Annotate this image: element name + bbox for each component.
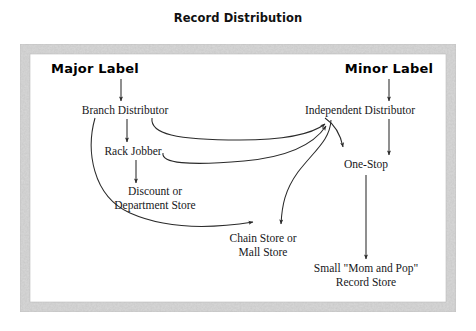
node-label-line: Branch Distributor bbox=[82, 104, 169, 118]
node-major-label: Major Label bbox=[51, 62, 139, 76]
node-independent-distributor: Independent Distributor bbox=[305, 104, 415, 118]
node-label-line: Department Store bbox=[114, 199, 195, 213]
node-mom-and-pop-record-store: Small "Mom and Pop" Record Store bbox=[314, 262, 418, 289]
figure-page: Record Distribution bbox=[0, 0, 476, 331]
node-label-line: Chain Store or bbox=[229, 232, 296, 246]
node-label-line: Record Store bbox=[314, 276, 418, 290]
node-label-line: Minor Label bbox=[345, 62, 433, 76]
edge-branch-to-independent bbox=[152, 118, 325, 140]
node-label-line: Independent Distributor bbox=[305, 104, 415, 118]
edge-rack-to-independent bbox=[163, 126, 326, 163]
node-label-line: Major Label bbox=[51, 62, 139, 76]
node-branch-distributor: Branch Distributor bbox=[82, 104, 169, 118]
node-label-line: Discount or bbox=[114, 185, 195, 199]
node-discount-department-store: Discount or Department Store bbox=[114, 185, 195, 212]
node-label-line: One-Stop bbox=[344, 158, 388, 172]
node-chain-mall-store: Chain Store or Mall Store bbox=[229, 232, 296, 259]
node-label-line: Small "Mom and Pop" bbox=[314, 262, 418, 276]
node-minor-label: Minor Label bbox=[345, 62, 433, 76]
node-one-stop: One-Stop bbox=[344, 158, 388, 172]
edge-independent-to-chain-store bbox=[281, 120, 331, 224]
node-label-line: Rack Jobber bbox=[104, 145, 161, 159]
node-label-line: Mall Store bbox=[229, 246, 296, 260]
node-rack-jobber: Rack Jobber bbox=[104, 145, 161, 159]
